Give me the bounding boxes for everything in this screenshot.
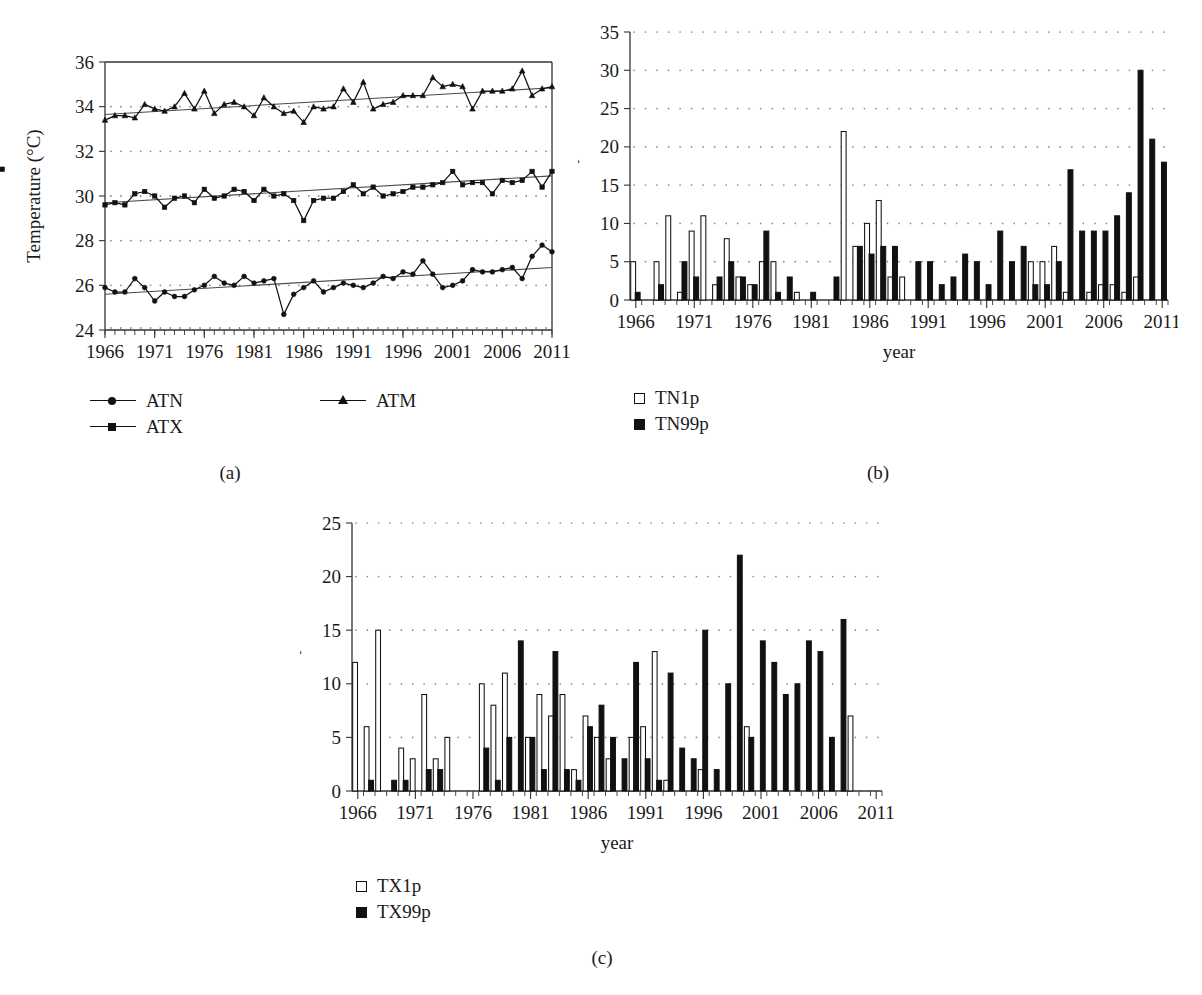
bar-solid <box>1021 246 1026 300</box>
line-marker-square-icon <box>90 420 136 434</box>
y-tick-label: 20 <box>322 566 341 587</box>
grid-dot <box>427 284 429 286</box>
grid-dot <box>771 223 773 225</box>
grid-dot <box>737 223 739 225</box>
grid-dot <box>1129 69 1131 71</box>
grid-dot <box>401 683 403 685</box>
grid-dot <box>308 106 310 108</box>
grid-dot <box>679 261 681 263</box>
grid-dot <box>783 184 785 186</box>
grid-dot <box>627 629 629 631</box>
grid-dot <box>1129 146 1131 148</box>
x-tick-label: 1986 <box>285 341 323 362</box>
grid-dot <box>933 146 935 148</box>
grid-dot <box>714 108 716 110</box>
x-tick-label: 2006 <box>800 802 838 823</box>
grid-dot <box>491 629 493 631</box>
grid-dot <box>506 284 508 286</box>
grid-dot <box>898 146 900 148</box>
grid-dot <box>841 108 843 110</box>
legend-label-atm: ATM <box>376 390 416 412</box>
grid-dot <box>1094 146 1096 148</box>
grid-dot <box>645 146 647 148</box>
grid-dot <box>417 284 419 286</box>
grid-dot <box>794 108 796 110</box>
grid-dot <box>397 106 399 108</box>
grid-dot <box>298 150 300 152</box>
grid-dot <box>120 327 122 329</box>
grid-dot <box>933 223 935 225</box>
grid-dot <box>466 106 468 108</box>
grid-dot <box>1002 223 1004 225</box>
grid-dot <box>1071 31 1073 33</box>
grid-dot <box>794 31 796 33</box>
grid-dot <box>401 522 403 524</box>
grid-dot <box>401 576 403 578</box>
grid-dot <box>209 240 211 242</box>
grid-dot <box>616 522 618 524</box>
grid-dot <box>298 106 300 108</box>
grid-dot <box>120 284 122 286</box>
grid-dot <box>209 150 211 152</box>
grid-dot <box>328 240 330 242</box>
grid-dot <box>582 629 584 631</box>
grid-dot <box>1071 146 1073 148</box>
open-square-icon <box>356 881 367 892</box>
grid-dot <box>423 522 425 524</box>
grid-dot <box>338 150 340 152</box>
grid-dot <box>967 69 969 71</box>
grid-dot <box>548 576 550 578</box>
data-point <box>361 192 365 196</box>
grid-dot <box>476 327 478 329</box>
grid-dot <box>944 31 946 33</box>
bar-solid <box>1056 262 1061 300</box>
grid-dot <box>189 327 191 329</box>
grid-dot <box>1106 31 1108 33</box>
grid-dot <box>288 284 290 286</box>
data-point <box>291 292 296 297</box>
grid-dot <box>1163 146 1165 148</box>
data-point <box>153 194 157 198</box>
x-tick-label: 1981 <box>235 341 273 362</box>
grid-dot <box>150 240 152 242</box>
grid-dot <box>691 108 693 110</box>
grid-dot <box>956 31 958 33</box>
grid-dot <box>979 31 981 33</box>
y-tick-label: 30 <box>600 60 619 81</box>
data-point <box>212 196 216 200</box>
grid-dot <box>1002 108 1004 110</box>
grid-dot <box>150 327 152 329</box>
y-axis-title: Temperature (°C) <box>23 129 45 262</box>
grid-dot <box>668 31 670 33</box>
data-point <box>231 99 237 104</box>
grid-dot <box>760 184 762 186</box>
data-point <box>460 183 464 187</box>
grid-dot <box>377 240 379 242</box>
grid-dot <box>616 576 618 578</box>
grid-dot <box>249 327 251 329</box>
grid-dot <box>679 184 681 186</box>
grid-dot <box>559 629 561 631</box>
legend-label-atn: ATN <box>146 390 183 412</box>
data-point <box>430 272 435 277</box>
grid-dot <box>446 629 448 631</box>
grid-dot <box>1117 184 1119 186</box>
grid-dot <box>1094 69 1096 71</box>
grid-dot <box>990 69 992 71</box>
bar-solid <box>834 277 839 300</box>
grid-dot <box>794 184 796 186</box>
grid-dot <box>921 108 923 110</box>
grid-dot <box>318 195 320 197</box>
x-tick-label: 1971 <box>675 311 713 332</box>
grid-dot <box>1059 223 1061 225</box>
data-point <box>331 104 337 109</box>
data-point <box>133 192 137 196</box>
data-point <box>192 201 196 205</box>
grid-dot <box>496 106 498 108</box>
grid-dot <box>783 31 785 33</box>
bar-solid <box>1126 193 1131 300</box>
grid-dot <box>702 146 704 148</box>
grid-dot <box>877 683 879 685</box>
grid-dot <box>169 240 171 242</box>
grid-dot <box>219 150 221 152</box>
